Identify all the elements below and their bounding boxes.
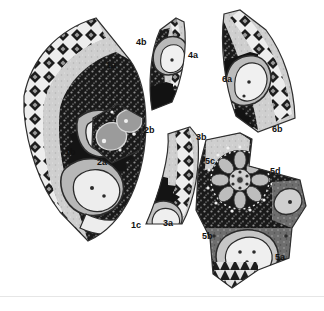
label-1a: 1a xyxy=(106,61,116,70)
label-5c: 5c xyxy=(205,157,215,166)
label-5b: 5b xyxy=(202,232,212,241)
label-4b: 4b xyxy=(136,38,146,47)
label-4a: 4a xyxy=(188,51,198,60)
label-2a: 2a xyxy=(97,158,107,167)
label-1c: 1c xyxy=(131,221,141,230)
potsherd-figure: potsherds of the diagram xyxy=(0,0,324,311)
label-2b: 2b xyxy=(144,126,154,135)
label-5d: 5d xyxy=(270,167,280,176)
label-1b: 1b xyxy=(65,148,75,157)
footer-divider xyxy=(0,296,324,297)
label-3b: 3b xyxy=(196,133,206,142)
potsherd-plate-image xyxy=(0,0,324,292)
potsherd-illustration xyxy=(0,0,324,292)
label-3a: 3a xyxy=(163,219,173,228)
label-6a: 6a xyxy=(222,75,232,84)
label-5a: 5a xyxy=(275,253,285,262)
label-6b: 6b xyxy=(272,125,282,134)
